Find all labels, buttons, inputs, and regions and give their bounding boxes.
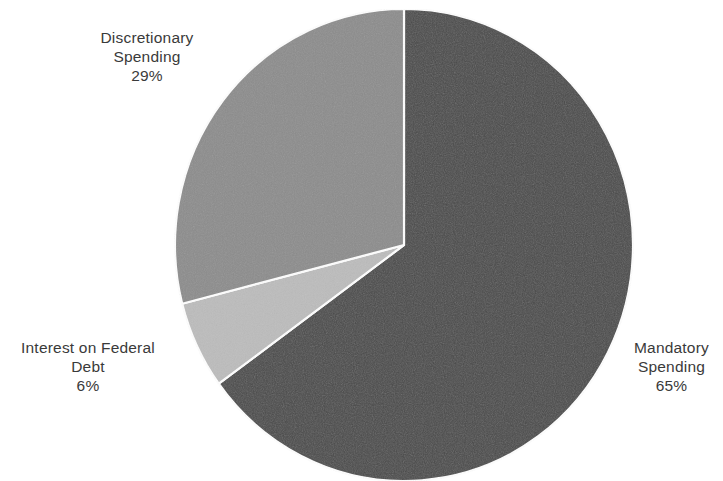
pie-label-mandatory-percent: 65%: [620, 376, 723, 395]
pie-label-discretionary-line2: Spending: [57, 47, 237, 66]
pie-label-interest-line2: Debt: [0, 357, 176, 376]
pie-label-interest-percent: 6%: [0, 376, 176, 395]
pie-label-discretionary-percent: 29%: [57, 66, 237, 85]
pie-chart-figure: Discretionary Spending 29% Interest on F…: [0, 0, 723, 481]
pie-label-interest-on-federal-debt: Interest on Federal Debt 6%: [0, 338, 176, 395]
pie-label-mandatory-line1: Mandatory: [620, 338, 723, 357]
pie-label-discretionary-spending: Discretionary Spending 29%: [57, 28, 237, 85]
pie-label-interest-line1: Interest on Federal: [0, 338, 176, 357]
pie-label-mandatory-spending: Mandatory Spending 65%: [620, 338, 723, 395]
pie-label-mandatory-line2: Spending: [620, 357, 723, 376]
pie-label-discretionary-line1: Discretionary: [57, 28, 237, 47]
